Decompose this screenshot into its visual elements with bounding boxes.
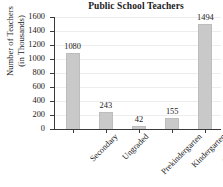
y-axis-tick-label: 200: [32, 110, 45, 120]
x-axis-tick: [205, 129, 206, 133]
y-axis-tick: 1200: [50, 45, 54, 46]
bar-value-label: 1080: [56, 42, 90, 52]
y-axis-label-line-2: (in Thousands): [16, 0, 27, 97]
y-axis-label: Number of Teachers (in Thousands): [5, 0, 31, 97]
gridline: [55, 59, 221, 60]
y-axis-tick-label: 800: [32, 68, 45, 78]
bar-value-label: 243: [89, 101, 123, 111]
bar-chart-figure: Public School Teachers Number of Teacher…: [0, 0, 223, 187]
y-axis-tick-label: 1000: [28, 54, 45, 64]
y-axis-tick: 400: [50, 101, 54, 102]
y-axis-label-line-1: Number of Teachers: [5, 0, 16, 97]
bar-value-label: 1494: [188, 13, 222, 23]
y-axis-tick: 1000: [50, 59, 54, 60]
bar: [66, 53, 80, 129]
y-axis-tick: 1600: [50, 17, 54, 18]
y-axis-tick: 1400: [50, 31, 54, 32]
x-axis-tick: [106, 129, 107, 133]
bar: [165, 118, 179, 129]
bar-value-label: 155: [155, 107, 189, 117]
chart-title: Public School Teachers: [52, 1, 220, 12]
gridline: [55, 101, 221, 102]
y-axis-tick-label: 1400: [28, 26, 45, 36]
plot-area: 02004006008001000120014001600 1080243421…: [54, 17, 220, 129]
y-axis-tick: 800: [50, 73, 54, 74]
x-axis-line: [54, 129, 221, 130]
y-axis-tick-label: 400: [32, 96, 45, 106]
x-axis-tick: [172, 129, 173, 133]
x-axis-tick: [73, 129, 74, 133]
y-axis-tick-label: 1200: [28, 40, 45, 50]
bar: [99, 112, 113, 129]
gridline: [55, 31, 221, 32]
y-axis-tick: 600: [50, 87, 54, 88]
bar-value-label: 42: [122, 115, 156, 125]
x-axis-category-label: Secondary: [88, 132, 120, 164]
y-axis-tick: 200: [50, 115, 54, 116]
y-axis-tick-label: 1600: [28, 12, 45, 22]
x-axis-category-label: Ungraded: [120, 132, 150, 162]
bar: [198, 24, 212, 129]
x-axis-tick: [139, 129, 140, 133]
y-axis-tick-label: 0: [41, 124, 45, 134]
gridline: [55, 87, 221, 88]
y-axis-tick-label: 600: [32, 82, 45, 92]
gridline: [55, 73, 221, 74]
y-axis-tick: 0: [50, 129, 54, 130]
